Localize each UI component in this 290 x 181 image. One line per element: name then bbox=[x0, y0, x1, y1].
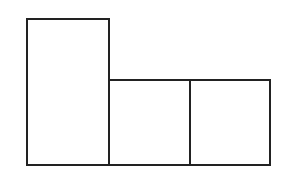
middle-square bbox=[108, 79, 191, 166]
right-square bbox=[189, 79, 271, 166]
tall-rectangle bbox=[26, 18, 110, 166]
